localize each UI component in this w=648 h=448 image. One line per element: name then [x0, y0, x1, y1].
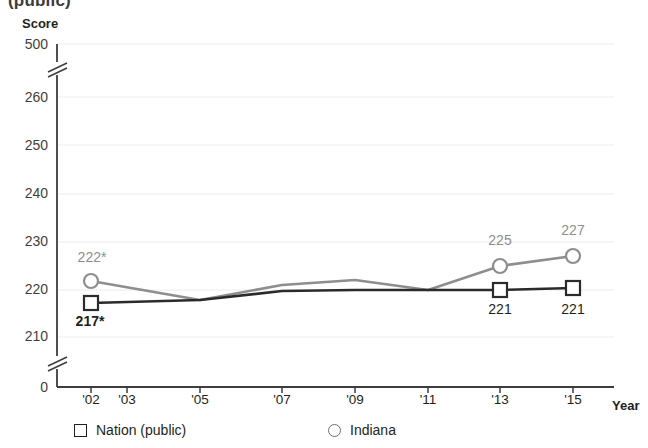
data-point-indiana	[84, 274, 98, 288]
data-label-indiana-15: 227	[547, 222, 599, 238]
data-point-nation	[84, 296, 98, 310]
legend-label-indiana: Indiana	[350, 422, 396, 438]
data-label-nation-15: 221	[547, 301, 599, 317]
x-tick-label: '11	[406, 392, 450, 407]
legend-item-indiana[interactable]: Indiana	[328, 422, 396, 438]
y-axis-break-lower	[48, 356, 67, 371]
data-label-nation-13: 221	[474, 301, 526, 317]
chart-legend: Nation (public) Indiana	[0, 418, 648, 448]
data-label-nation-02: 217*	[64, 313, 116, 329]
data-point-indiana	[566, 249, 580, 263]
data-label-indiana-13: 225	[474, 232, 526, 248]
x-tick-label: '09	[333, 392, 377, 407]
data-point-indiana	[493, 259, 507, 273]
data-point-nation	[493, 283, 507, 297]
x-tick-label: '05	[178, 392, 222, 407]
square-marker-icon	[74, 424, 87, 437]
circle-marker-icon	[328, 424, 341, 437]
gridlines	[57, 44, 614, 337]
y-axis-break-upper	[48, 62, 67, 77]
x-tick-label: '03	[105, 392, 149, 407]
x-tick-label: '07	[260, 392, 304, 407]
data-label-indiana-02: 222*	[66, 249, 118, 265]
x-tick-label: '15	[551, 392, 595, 407]
x-tick-label: '13	[478, 392, 522, 407]
data-point-nation	[566, 281, 580, 295]
chart-root: (public) Score Year 500 260 250 240 230 …	[0, 0, 648, 448]
legend-item-nation[interactable]: Nation (public)	[74, 422, 186, 438]
legend-label-nation: Nation (public)	[96, 422, 186, 438]
